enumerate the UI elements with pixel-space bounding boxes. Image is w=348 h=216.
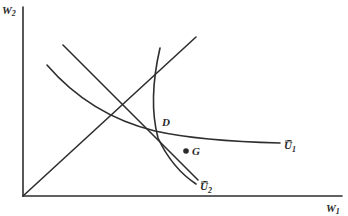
x-axis-label: W1 <box>326 202 340 216</box>
u1-label-text: Ū1 <box>284 140 296 155</box>
u2-label-text: Ū2 <box>200 181 212 196</box>
constraint-line <box>63 45 198 180</box>
u2-curve <box>153 48 196 184</box>
diagram-canvas: W2 W1 D G <box>0 0 348 216</box>
y-axis-label: W2 <box>2 4 16 18</box>
forty-five-degree-line <box>23 37 196 196</box>
point-d-label: D <box>161 116 170 128</box>
u1-curve <box>47 65 280 143</box>
u1-label <box>0 0 292 141</box>
point-g-marker <box>183 148 189 154</box>
point-g-label: G <box>192 145 200 157</box>
